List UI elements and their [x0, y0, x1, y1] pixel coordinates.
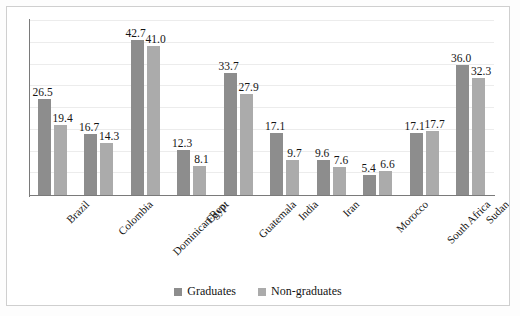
bar-value-label: 26.5 [33, 86, 53, 98]
x-axis-label: South Africa [445, 198, 493, 246]
bar-value-label: 9.6 [315, 147, 329, 159]
bar[interactable]: 14.3 [100, 143, 113, 195]
bar[interactable]: 9.7 [286, 160, 299, 195]
bar-value-label: 17.7 [425, 118, 445, 130]
bar-group: 36.032.3 [448, 21, 495, 195]
bar-value-label: 14.3 [99, 130, 119, 142]
bar-value-label: 33.7 [219, 60, 239, 72]
bar[interactable]: 42.7 [131, 40, 144, 195]
bar-group: 33.727.9 [215, 21, 262, 195]
legend-label: Non-graduates [271, 284, 342, 299]
x-axis-label: Morocco [393, 198, 430, 235]
legend-swatch-icon [258, 288, 266, 296]
bar[interactable]: 8.1 [193, 166, 206, 195]
bar-group: 9.67.6 [308, 21, 355, 195]
bar[interactable]: 17.1 [270, 133, 283, 195]
bar-group: 17.19.7 [262, 21, 309, 195]
bar-value-label: 36.0 [451, 52, 471, 64]
bar[interactable]: 19.4 [54, 125, 67, 195]
bar-group: 12.38.1 [169, 21, 216, 195]
plot-area: 26.519.416.714.342.741.012.38.133.727.91… [29, 21, 494, 195]
bar-group: 26.519.4 [29, 21, 76, 195]
bar[interactable]: 27.9 [240, 94, 253, 195]
bar-value-label: 12.3 [172, 137, 192, 149]
bar-group: 17.117.7 [401, 21, 448, 195]
bar[interactable]: 9.6 [317, 160, 330, 195]
bar-group: 16.714.3 [76, 21, 123, 195]
legend-item[interactable]: Graduates [174, 284, 236, 299]
x-axis-label: Iran [340, 198, 361, 219]
bar[interactable]: 26.5 [38, 99, 51, 195]
bar[interactable]: 6.6 [379, 171, 392, 195]
x-axis-label: India [295, 198, 319, 222]
x-axis-label: Guatemala [256, 198, 298, 240]
bar[interactable]: 17.7 [426, 131, 439, 195]
bar-group: 5.46.6 [355, 21, 402, 195]
bar[interactable]: 36.0 [456, 65, 469, 196]
x-axis-line [29, 195, 495, 196]
bar[interactable]: 32.3 [472, 78, 485, 195]
bar[interactable]: 5.4 [363, 175, 376, 195]
x-axis-label: Colombia [115, 198, 154, 237]
bar-value-label: 17.1 [265, 120, 285, 132]
figure-border: 26.519.416.714.342.741.012.38.133.727.91… [6, 6, 510, 306]
legend-label: Graduates [187, 284, 236, 299]
bar[interactable]: 41.0 [147, 46, 160, 195]
bar[interactable]: 7.6 [333, 167, 346, 195]
bar-value-label: 8.1 [194, 153, 208, 165]
x-axis-label: Egypt [203, 198, 230, 225]
bar-value-label: 16.7 [79, 121, 99, 133]
y-axis-line [29, 19, 30, 197]
bar[interactable]: 16.7 [84, 134, 97, 195]
bar-value-label: 19.4 [53, 112, 73, 124]
legend-item[interactable]: Non-graduates [258, 284, 342, 299]
legend-swatch-icon [174, 288, 182, 296]
bar[interactable]: 12.3 [177, 150, 190, 195]
bar-value-label: 5.4 [361, 162, 375, 174]
bar-value-label: 6.6 [380, 158, 394, 170]
chart-figure: 26.519.416.714.342.741.012.38.133.727.91… [0, 0, 520, 316]
bar[interactable]: 33.7 [224, 73, 237, 195]
bar-value-label: 9.7 [287, 147, 301, 159]
bar-value-label: 32.3 [471, 65, 491, 77]
bar-group: 42.741.0 [122, 21, 169, 195]
bar-value-label: 41.0 [146, 33, 166, 45]
bar-value-label: 7.6 [334, 154, 348, 166]
bar[interactable]: 17.1 [410, 133, 423, 195]
bar-value-label: 42.7 [126, 27, 146, 39]
x-axis-label: Brazil [64, 198, 91, 225]
bar-value-label: 27.9 [239, 81, 259, 93]
bar-value-label: 17.1 [405, 120, 425, 132]
chart-legend: GraduatesNon-graduates [7, 284, 509, 299]
